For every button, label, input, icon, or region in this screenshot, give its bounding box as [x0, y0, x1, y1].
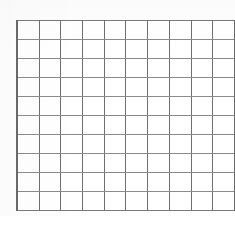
grid-cell[interactable] [61, 78, 83, 97]
grid-cell[interactable] [17, 21, 39, 40]
grid-cell[interactable] [148, 116, 170, 135]
grid-cell[interactable] [126, 135, 148, 154]
grid-cell[interactable] [83, 78, 105, 97]
grid-cell[interactable] [169, 78, 191, 97]
grid-cell[interactable] [104, 192, 126, 211]
grid-cell[interactable] [191, 192, 213, 211]
grid-cell[interactable] [148, 135, 170, 154]
grid-cell[interactable] [17, 78, 39, 97]
grid-cell[interactable] [213, 116, 235, 135]
grid-cell[interactable] [148, 173, 170, 192]
grid-cell[interactable] [61, 135, 83, 154]
grid-cell[interactable] [104, 40, 126, 59]
grid-cell[interactable] [104, 173, 126, 192]
grid-cell[interactable] [39, 192, 61, 211]
grid-cell[interactable] [148, 78, 170, 97]
grid-cell[interactable] [148, 21, 170, 40]
grid-cell[interactable] [213, 21, 235, 40]
grid-cell[interactable] [126, 78, 148, 97]
grid-cell[interactable] [126, 192, 148, 211]
grid-cell[interactable] [148, 97, 170, 116]
grid-cell[interactable] [126, 154, 148, 173]
grid-cell[interactable] [83, 173, 105, 192]
grid-cell[interactable] [191, 40, 213, 59]
grid-cell[interactable] [17, 173, 39, 192]
grid-cell[interactable] [169, 59, 191, 78]
grid-cell[interactable] [213, 154, 235, 173]
grid-cell[interactable] [17, 154, 39, 173]
grid-cell[interactable] [191, 173, 213, 192]
grid-cell[interactable] [104, 59, 126, 78]
grid-cell[interactable] [61, 116, 83, 135]
grid-cell[interactable] [83, 192, 105, 211]
grid-cell[interactable] [169, 21, 191, 40]
grid-cell[interactable] [213, 59, 235, 78]
grid-cell[interactable] [104, 116, 126, 135]
grid-cell[interactable] [17, 40, 39, 59]
grid-cell[interactable] [191, 97, 213, 116]
grid-cell[interactable] [39, 40, 61, 59]
grid-cell[interactable] [191, 135, 213, 154]
grid-cell[interactable] [39, 97, 61, 116]
grid-cell[interactable] [61, 192, 83, 211]
grid-cell[interactable] [126, 173, 148, 192]
grid-cell[interactable] [83, 154, 105, 173]
grid-cell[interactable] [191, 78, 213, 97]
grid-cell[interactable] [17, 59, 39, 78]
grid-cell[interactable] [126, 40, 148, 59]
grid-cell[interactable] [17, 192, 39, 211]
grid-cell[interactable] [104, 78, 126, 97]
grid-cell[interactable] [61, 59, 83, 78]
grid-cell[interactable] [191, 21, 213, 40]
grid-cell[interactable] [39, 173, 61, 192]
grid-cell[interactable] [17, 97, 39, 116]
grid-cell[interactable] [169, 173, 191, 192]
grid-cell[interactable] [169, 40, 191, 59]
grid-cell[interactable] [191, 116, 213, 135]
grid-cell[interactable] [17, 116, 39, 135]
grid-cell[interactable] [104, 154, 126, 173]
grid-cell[interactable] [61, 154, 83, 173]
grid-cell[interactable] [61, 21, 83, 40]
grid-cell[interactable] [61, 173, 83, 192]
grid-cell[interactable] [126, 116, 148, 135]
grid-cell[interactable] [83, 97, 105, 116]
grid-cell[interactable] [39, 78, 61, 97]
grid-cell[interactable] [148, 154, 170, 173]
grid-cell[interactable] [191, 59, 213, 78]
grid-cell[interactable] [39, 59, 61, 78]
grid-cell[interactable] [148, 192, 170, 211]
grid-cell[interactable] [39, 21, 61, 40]
grid-cell[interactable] [61, 97, 83, 116]
grid-cell[interactable] [39, 135, 61, 154]
grid-cell[interactable] [104, 21, 126, 40]
grid-cell[interactable] [39, 116, 61, 135]
grid-cell[interactable] [213, 173, 235, 192]
grid-cell[interactable] [83, 40, 105, 59]
grid-cell[interactable] [169, 116, 191, 135]
grid-cell[interactable] [213, 97, 235, 116]
grid-cell[interactable] [61, 40, 83, 59]
grid-cell[interactable] [83, 59, 105, 78]
grid-cell[interactable] [169, 97, 191, 116]
grid-cell[interactable] [213, 135, 235, 154]
grid-cell[interactable] [17, 135, 39, 154]
grid-cell[interactable] [126, 21, 148, 40]
grid-cell[interactable] [39, 154, 61, 173]
grid-cell[interactable] [148, 40, 170, 59]
grid-cell[interactable] [83, 21, 105, 40]
grid-cell[interactable] [213, 40, 235, 59]
grid-cell[interactable] [104, 135, 126, 154]
grid-cell[interactable] [83, 116, 105, 135]
grid-cell[interactable] [126, 97, 148, 116]
grid-cell[interactable] [213, 192, 235, 211]
grid-cell[interactable] [169, 135, 191, 154]
grid-cell[interactable] [83, 135, 105, 154]
grid-cell[interactable] [191, 154, 213, 173]
grid-cell[interactable] [169, 154, 191, 173]
grid-cell[interactable] [126, 59, 148, 78]
grid-cell[interactable] [213, 78, 235, 97]
grid-cell[interactable] [169, 192, 191, 211]
grid-cell[interactable] [148, 59, 170, 78]
grid-cell[interactable] [104, 97, 126, 116]
